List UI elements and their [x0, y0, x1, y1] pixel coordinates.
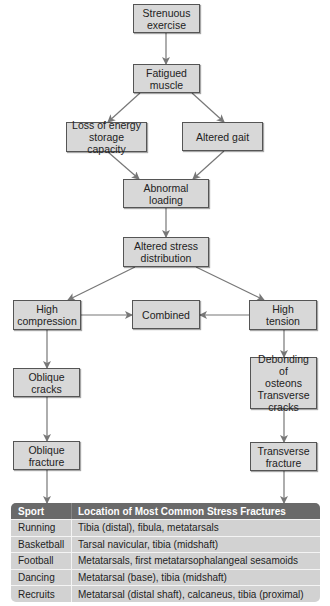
table-row: Recruits Metatarsal (distal shaft), calc…: [11, 585, 320, 602]
cell-sport: Dancing: [11, 570, 72, 586]
node-oblique-cracks: Oblique cracks: [13, 368, 80, 397]
node-abnormal: Abnormal loading: [123, 179, 209, 208]
table-row: Football Metatarsals, first metatarsopha…: [11, 552, 320, 569]
arrow-loss-to-abnormal: [108, 152, 139, 179]
arrow-altered_stress-to-high_compression: [68, 267, 135, 300]
node-altered-stress: Altered stress distribution: [123, 237, 209, 267]
node-oblique-fracture: Oblique fracture: [13, 441, 80, 470]
node-strenuous: Strenuous exercise: [133, 4, 200, 33]
header-location: Location of Most Common Stress Fractures: [72, 503, 320, 519]
stress-fracture-table: Sport Location of Most Common Stress Fra…: [11, 503, 320, 602]
arrow-gait-to-abnormal: [193, 151, 224, 179]
header-sport: Sport: [11, 503, 72, 519]
cell-sport: Football: [11, 553, 72, 569]
cell-sport: Recruits: [11, 586, 72, 602]
arrow-fatigued-to-gait: [192, 93, 224, 122]
cell-location: Metatarsal (base), tibia (midshaft): [72, 570, 320, 586]
node-fatigued: Fatigued muscle: [133, 64, 200, 93]
node-high-compression: High compression: [13, 300, 81, 330]
node-combined: Combined: [132, 300, 200, 329]
cell-location: Metatarsal (distal shaft), calcaneus, ti…: [72, 586, 320, 602]
node-loss: Loss of energy storage capacity: [66, 122, 147, 152]
table-header-row: Sport Location of Most Common Stress Fra…: [11, 503, 320, 519]
node-gait: Altered gait: [182, 122, 263, 151]
cell-location: Tibia (distal), fibula, metatarsals: [72, 520, 320, 536]
cell-location: Metatarsals, first metatarsophalangeal s…: [72, 553, 320, 569]
table-row: Dancing Metatarsal (base), tibia (midsha…: [11, 569, 320, 586]
node-transverse-fracture: Transverse fracture: [250, 442, 317, 471]
cell-location: Tarsal navicular, tibia (midshaft): [72, 537, 320, 553]
arrow-fatigued-to-loss: [108, 93, 140, 122]
cell-sport: Basketball: [11, 537, 72, 553]
table-row: Basketball Tarsal navicular, tibia (mids…: [11, 536, 320, 553]
node-debonding: Debonding of osteons Transverse cracks: [250, 357, 317, 409]
arrow-altered_stress-to-high_tension: [196, 267, 264, 300]
cell-sport: Running: [11, 520, 72, 536]
node-high-tension: High tension: [249, 300, 317, 330]
table-row: Running Tibia (distal), fibula, metatars…: [11, 519, 320, 536]
